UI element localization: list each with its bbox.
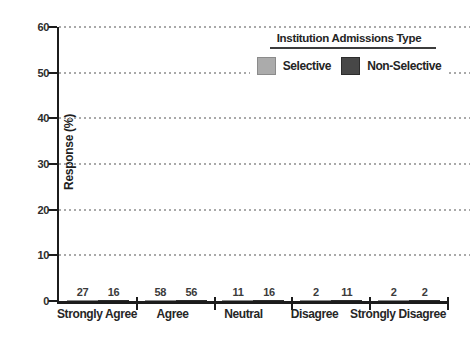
y-tick-60	[48, 26, 57, 28]
category-label-3: Neutral	[208, 307, 279, 321]
y-tick-label-10: 10	[38, 249, 49, 261]
y-tick-0	[48, 300, 57, 302]
legend-items: Selective Non-Selective	[250, 57, 448, 75]
legend: Institution Admissions Type Selective No…	[250, 30, 448, 81]
bar-non-selective-3	[253, 300, 284, 301]
bar-chart-figure: Response (%) 27165856111621122 010203040…	[0, 0, 476, 344]
category-label-4: Disagree	[279, 307, 350, 321]
bar-value-label: 16	[263, 287, 274, 298]
x-axis-labels: Strongly AgreeAgreeNeutralDisagreeStrong…	[57, 307, 446, 321]
y-tick-50	[48, 72, 57, 74]
bar-column: 56	[176, 287, 207, 301]
y-tick-label-50: 50	[38, 67, 49, 79]
y-tick-label-30: 30	[38, 158, 49, 170]
bar-value-label: 11	[233, 287, 244, 298]
bar-value-label: 2	[313, 287, 319, 298]
bar-selective-4	[300, 300, 331, 301]
category-label-5: Strongly Disagree	[350, 307, 446, 321]
bar-value-label: 58	[154, 287, 165, 298]
legend-item-selective: Selective	[257, 57, 331, 75]
y-tick-40	[48, 117, 57, 119]
legend-label-selective: Selective	[283, 59, 331, 73]
bar-non-selective-5	[409, 300, 440, 301]
bar-value-label: 2	[422, 287, 428, 298]
bar-column: 16	[98, 287, 129, 301]
legend-underline	[270, 47, 436, 49]
bar-non-selective-1	[98, 300, 129, 301]
bar-column: 11	[222, 287, 253, 301]
bar-column: 58	[145, 287, 176, 301]
bar-value-label: 11	[341, 287, 352, 298]
bar-column: 16	[253, 287, 284, 301]
y-tick-30	[48, 163, 57, 165]
selective-swatch-icon	[257, 57, 276, 75]
bar-value-label: 2	[391, 287, 397, 298]
bar-value-label: 27	[77, 287, 88, 298]
bar-value-label: 56	[185, 287, 196, 298]
legend-title: Institution Admissions Type	[250, 32, 448, 47]
bar-selective-2	[145, 300, 176, 301]
bar-column: 2	[300, 287, 331, 301]
legend-label-non-selective: Non-Selective	[367, 59, 441, 73]
bar-column: 27	[67, 287, 98, 301]
bar-group-strongly-agree: 2716	[59, 27, 137, 301]
category-label-1: Strongly Agree	[57, 307, 137, 321]
non-selective-swatch-icon	[341, 57, 360, 75]
bar-selective-1	[67, 300, 98, 301]
y-tick-label-0: 0	[43, 295, 49, 307]
bar-column: 11	[331, 287, 362, 301]
y-tick-label-60: 60	[38, 21, 49, 33]
category-label-2: Agree	[137, 307, 208, 321]
bar-non-selective-2	[176, 300, 207, 301]
bar-column: 2	[409, 287, 440, 301]
y-tick-label-20: 20	[38, 204, 49, 216]
bar-column: 2	[378, 287, 409, 301]
bar-group-agree: 5856	[137, 27, 215, 301]
y-tick-20	[48, 209, 57, 211]
y-tick-label-40: 40	[38, 112, 49, 124]
legend-item-non-selective: Non-Selective	[341, 57, 441, 75]
y-tick-10	[48, 254, 57, 256]
bar-selective-5	[378, 300, 409, 301]
bar-non-selective-4	[331, 300, 362, 301]
bar-value-label: 16	[108, 287, 119, 298]
bar-selective-3	[222, 300, 253, 301]
